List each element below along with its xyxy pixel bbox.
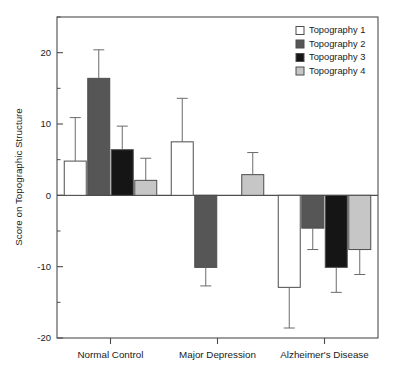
x-axis-ticks [111, 338, 325, 344]
legend-label-4: Topography 4 [309, 66, 365, 76]
legend-swatch-3 [296, 54, 304, 62]
bar-3-3 [325, 195, 347, 267]
y-axis-title: Score on Topographic Structure [13, 108, 24, 246]
x-tick-label: Major Depression [179, 349, 256, 360]
y-tick-label: -10 [37, 261, 51, 272]
legend-swatch-1 [296, 27, 304, 35]
x-tick-label: Alzheimer's Disease [280, 349, 369, 360]
bar-2-1 [171, 142, 193, 196]
y-tick-label: 0 [46, 190, 51, 201]
bar-chart: 20100-10-20 Normal ControlMajor Depressi… [0, 0, 402, 374]
y-tick-label: 10 [40, 118, 51, 129]
bar-3-2 [302, 195, 324, 228]
bar-1-4 [135, 180, 157, 195]
bar-1-1 [64, 161, 86, 195]
bar-2-2 [195, 195, 217, 267]
legend-label-1: Topography 1 [309, 25, 365, 35]
bar-1-3 [111, 150, 133, 196]
bar-1-2 [88, 78, 110, 195]
y-tick-label: 20 [40, 47, 51, 58]
bar-3-1 [278, 195, 300, 287]
figure-container: 20100-10-20 Normal ControlMajor Depressi… [0, 0, 402, 374]
x-axis-tick-labels: Normal ControlMajor DepressionAlzheimer'… [78, 349, 370, 360]
bar-3-4 [349, 195, 371, 249]
y-tick-label: -20 [37, 332, 51, 343]
legend-swatch-2 [296, 40, 304, 48]
legend-swatch-4 [296, 67, 304, 75]
legend-label-3: Topography 3 [309, 52, 365, 62]
x-tick-label: Normal Control [78, 349, 144, 360]
bar-2-4 [242, 175, 264, 196]
y-axis-tick-labels: 20100-10-20 [37, 47, 51, 343]
legend-label-2: Topography 2 [309, 39, 365, 49]
